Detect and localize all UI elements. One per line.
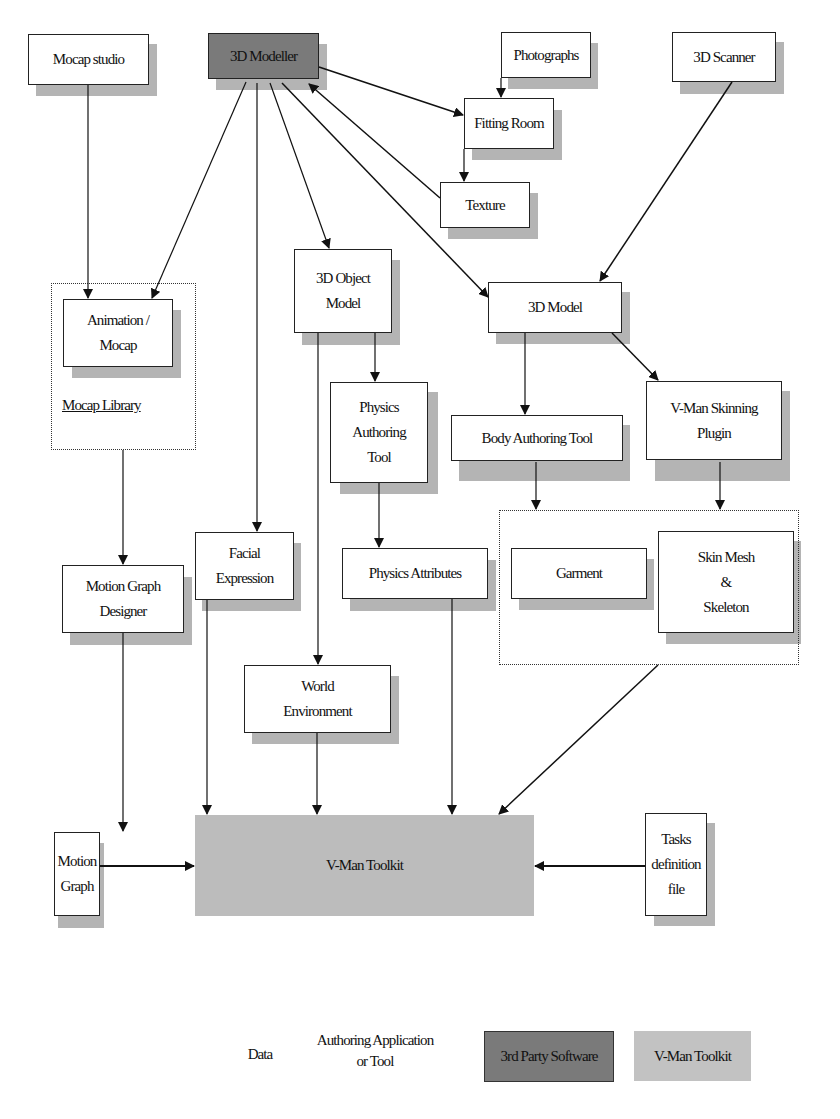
node-3d-modeller[interactable]: 3D Modeller (208, 33, 319, 79)
node-animation-mocap[interactable]: Animation / Mocap (63, 299, 173, 367)
node-skinning-plugin[interactable]: V-Man Skinning Plugin (646, 381, 782, 460)
node-physics-attributes[interactable]: Physics Attributes (342, 548, 488, 599)
node-physics-authoring-tool[interactable]: Physics Authoring Tool (330, 382, 428, 483)
legend-third-party-software: 3rd Party Software (484, 1031, 614, 1082)
node-garment[interactable]: Garment (511, 548, 647, 599)
node-fitting-room[interactable]: Fitting Room (464, 98, 554, 149)
node-3d-scanner[interactable]: 3D Scanner (672, 32, 776, 82)
edge-modeller-fittingroom (319, 67, 463, 115)
node-texture[interactable]: Texture (440, 182, 530, 228)
diagram-canvas: Mocap Library Mocap studio 3D Modeller P… (0, 0, 840, 1119)
edge-group-toolkit (499, 665, 658, 814)
edge-scanner-3dmodel (600, 82, 732, 281)
node-motion-graph-designer[interactable]: Motion Graph Designer (62, 565, 184, 633)
node-3d-object-model[interactable]: 3D Object Model (294, 249, 392, 333)
node-3d-model[interactable]: 3D Model (488, 282, 622, 333)
node-photographs[interactable]: Photographs (501, 32, 591, 78)
node-mocap-studio[interactable]: Mocap studio (28, 34, 149, 85)
edge-modeller-objectmodel (270, 83, 329, 248)
edge-texture-modeller (309, 84, 440, 198)
node-skin-mesh-skeleton[interactable]: Skin Mesh & Skeleton (658, 531, 794, 633)
node-tasks-definition-file[interactable]: Tasks definition file (645, 813, 707, 916)
node-vman-toolkit[interactable]: V-Man Toolkit (195, 815, 534, 916)
edge-modeller-animation (152, 82, 246, 298)
legend-data: Data (240, 1044, 280, 1065)
node-world-environment[interactable]: World Environment (244, 665, 391, 733)
node-motion-graph[interactable]: Motion Graph (54, 832, 100, 916)
legend-authoring-tool: Authoring Application or Tool (300, 1030, 450, 1072)
mocap-library-label: Mocap Library (62, 397, 141, 414)
node-body-authoring-tool[interactable]: Body Authoring Tool (451, 415, 623, 461)
legend-vman-toolkit: V-Man Toolkit (634, 1031, 751, 1081)
node-facial-expression[interactable]: Facial Expression (195, 532, 294, 600)
